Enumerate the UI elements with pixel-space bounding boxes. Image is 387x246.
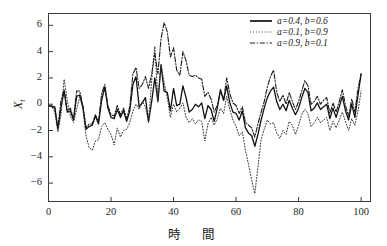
legend-line-sample-1 [250, 16, 272, 26]
x-tick-label: 60 [221, 206, 251, 217]
series-line-1 [49, 65, 362, 147]
chart-legend: a=0.4, b=0.6a=0.1, b=0.9a=0.9, b=0.1 [250, 15, 328, 48]
chart-figure: 6420−2−4−6 020406080100 Xt 時 間 a=0.4, b=… [0, 0, 387, 246]
y-tick-label: 4 [16, 45, 42, 56]
legend-label-2: a=0.1, b=0.9 [277, 27, 328, 37]
x-axis-label: 時 間 [0, 224, 387, 243]
series-line-2 [49, 46, 362, 193]
x-axis-ticks [49, 197, 362, 202]
y-axis-ticks [49, 25, 54, 183]
legend-label-1: a=0.4, b=0.6 [277, 16, 328, 26]
y-tick-label: −6 [16, 176, 42, 187]
legend-item-3: a=0.9, b=0.1 [250, 37, 328, 48]
x-tick-label: 100 [346, 206, 376, 217]
y-tick-label: 6 [16, 18, 42, 29]
x-tick-label: 20 [96, 206, 126, 217]
y-tick-label: −2 [16, 124, 42, 135]
y-tick-label: 2 [16, 71, 42, 82]
x-tick-label: 80 [284, 206, 314, 217]
y-tick-label: −4 [16, 150, 42, 161]
legend-line-sample-3 [250, 38, 272, 48]
y-axis-label: Xt [11, 91, 27, 117]
y-axis-label-subscript: t [18, 99, 27, 101]
data-series-group [49, 23, 362, 194]
x-tick-label: 0 [34, 206, 64, 217]
legend-item-1: a=0.4, b=0.6 [250, 15, 328, 26]
y-axis-label-main: X [11, 102, 25, 109]
legend-line-sample-2 [250, 27, 272, 37]
x-tick-label: 40 [159, 206, 189, 217]
legend-label-3: a=0.9, b=0.1 [277, 38, 328, 48]
legend-item-2: a=0.1, b=0.9 [250, 26, 328, 37]
